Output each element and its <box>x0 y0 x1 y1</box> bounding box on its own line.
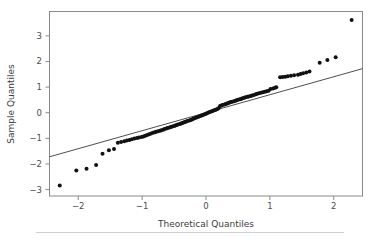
data-point <box>307 69 311 73</box>
y-tick-label: −3 <box>29 185 42 195</box>
data-point <box>350 18 354 22</box>
data-point <box>101 152 105 156</box>
data-point <box>334 55 338 59</box>
y-tick-label: 2 <box>37 56 42 66</box>
x-tick-label: −1 <box>136 201 149 211</box>
qq-plot-figure: −3−2−10123 −2−1012 Theoretical Quantiles… <box>0 0 380 240</box>
data-point <box>74 168 78 172</box>
x-tick-label: 1 <box>267 201 272 211</box>
data-point <box>112 147 116 151</box>
x-tick-label: −2 <box>72 201 85 211</box>
data-point <box>107 148 111 152</box>
y-tick-label: −1 <box>29 133 42 143</box>
qq-plot-canvas: −3−2−10123 −2−1012 Theoretical Quantiles… <box>0 0 380 240</box>
x-tick-label: 0 <box>203 201 208 211</box>
y-tick-label: 1 <box>37 82 42 92</box>
y-tick-label: 0 <box>37 108 42 118</box>
data-point <box>325 58 329 62</box>
y-axis-title: Sample Quantiles <box>6 64 16 144</box>
x-axis-title: Theoretical Quantiles <box>157 219 254 229</box>
y-tick-label: 3 <box>37 31 42 41</box>
data-point <box>292 73 296 77</box>
x-tick-label: 2 <box>331 201 336 211</box>
y-tick-label: −2 <box>29 159 42 169</box>
data-point <box>318 61 322 65</box>
data-point <box>94 163 98 167</box>
data-point <box>85 167 89 171</box>
data-point <box>274 85 278 89</box>
data-point <box>58 183 62 187</box>
